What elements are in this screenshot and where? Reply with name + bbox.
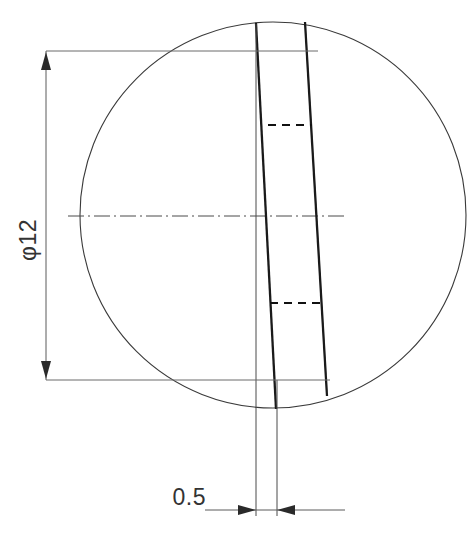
technical-drawing-canvas: φ12 0.5 bbox=[0, 0, 473, 536]
slot-arrow-right-icon bbox=[277, 505, 295, 515]
diameter-arrow-top-icon bbox=[41, 52, 51, 70]
diameter-arrow-bottom-icon bbox=[41, 361, 51, 379]
slot-width-dimension-label: 0.5 bbox=[173, 484, 206, 510]
slot-right-edge bbox=[305, 22, 327, 396]
slot-arrow-left-icon bbox=[238, 505, 256, 515]
diameter-dimension-label: φ12 bbox=[15, 219, 41, 261]
engineering-drawing-svg: φ12 0.5 bbox=[0, 0, 473, 536]
